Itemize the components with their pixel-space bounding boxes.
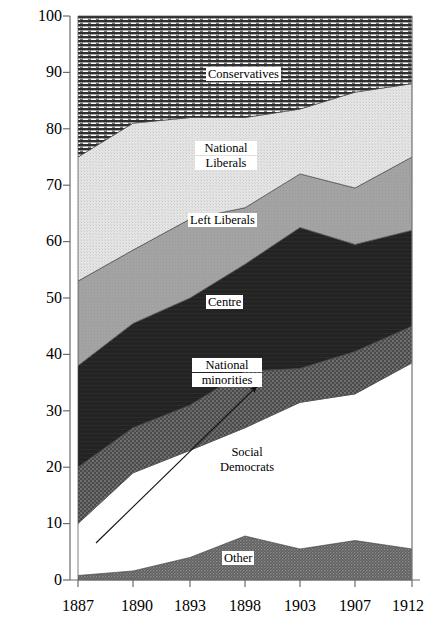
band-label-centre: Centre (206, 295, 243, 309)
band-label-conservatives: Conservatives (206, 67, 281, 81)
y-axis-ticks (63, 16, 70, 580)
x-tick-label-1893: 1893 (160, 597, 220, 615)
x-tick-label-1912: 1912 (378, 597, 438, 615)
x-axis-ticks (78, 580, 412, 587)
x-tick-label-1890: 1890 (107, 597, 167, 615)
plot-area (0, 0, 438, 641)
stacked-area-bands (78, 16, 412, 580)
band-label-national-liberals-line1: National (195, 141, 257, 155)
x-tick-label-1903: 1903 (270, 597, 330, 615)
band-label-social-democrats-line2: Democrats (202, 460, 292, 475)
x-tick-label-1898: 1898 (215, 597, 275, 615)
band-label-national-liberals-line2: Liberals (195, 156, 257, 170)
x-tick-label-1907: 1907 (325, 597, 385, 615)
chart-figure: Percentage of total votes cast (first ba… (0, 0, 438, 641)
band-label-left-liberals: Left Liberals (188, 213, 257, 227)
band-label-social-democrats-line1: Social (212, 445, 282, 460)
band-label-national-minorities-line1: National (192, 358, 262, 372)
band-label-other: Other (222, 551, 254, 565)
x-tick-label-1887: 1887 (48, 597, 108, 615)
band-label-national-minorities-line2: minorities (192, 373, 262, 387)
